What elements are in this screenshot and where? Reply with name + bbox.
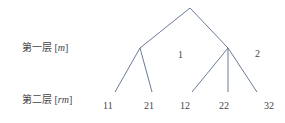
leaf-11: 11	[103, 101, 113, 111]
edge-root-node1	[140, 8, 190, 48]
leaf-22: 22	[219, 101, 229, 111]
edge-node2-leaf12	[192, 48, 228, 92]
edge-root-node2	[190, 8, 228, 48]
leaf-12: 12	[180, 101, 190, 111]
leaf-32: 32	[264, 101, 274, 111]
leaf-21: 21	[144, 101, 154, 111]
level-1-label: 第一层 [m]	[22, 43, 68, 53]
branch-label-1: 1	[178, 50, 183, 60]
level-2-label: 第二层 [rm]	[22, 95, 72, 105]
edge-node2-leaf32	[228, 48, 257, 92]
edge-node1-leaf11	[115, 48, 140, 92]
edge-node1-leaf21	[140, 48, 152, 92]
branch-label-2: 2	[255, 49, 260, 59]
